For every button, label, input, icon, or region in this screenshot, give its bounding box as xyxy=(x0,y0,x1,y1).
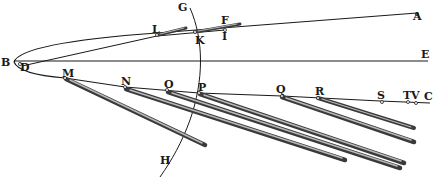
label-o: O xyxy=(164,78,174,91)
label-i: I xyxy=(222,30,227,43)
label-b: B xyxy=(1,56,10,69)
label-n: N xyxy=(121,75,131,88)
comet-diagram: B D G L K F I A E M N O P Q R S T V C H xyxy=(0,0,438,180)
label-m: M xyxy=(62,67,74,80)
label-d: D xyxy=(20,61,30,74)
label-v: V xyxy=(410,89,420,102)
label-e: E xyxy=(421,48,429,61)
tail-o xyxy=(168,92,400,168)
tail-m xyxy=(66,79,205,145)
label-q: Q xyxy=(276,83,286,96)
label-g: G xyxy=(178,1,187,14)
label-h: H xyxy=(160,154,170,167)
label-k: K xyxy=(195,34,205,47)
label-l: L xyxy=(152,23,160,36)
label-s: S xyxy=(377,89,385,102)
label-f: F xyxy=(221,14,229,27)
label-a: A xyxy=(412,10,422,23)
label-r: R xyxy=(315,85,325,98)
label-p: P xyxy=(198,81,206,94)
label-c: C xyxy=(424,90,433,103)
